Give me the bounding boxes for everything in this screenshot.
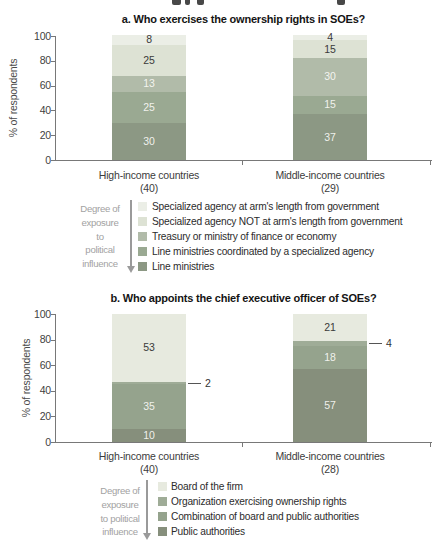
chart-b-title: b. Who appoints the chief executive offi…: [55, 292, 432, 304]
callout-value-label: 2: [205, 377, 211, 390]
exposure-annotation-line: to: [62, 230, 138, 243]
legend-item-label: Board of the firm: [171, 480, 243, 493]
y-axis-tick: [51, 135, 55, 136]
bar-segment: [112, 382, 186, 385]
y-axis-tick: [51, 442, 55, 443]
legend-item-label: Specialized agency at arm's length from …: [152, 200, 379, 213]
y-tick-label: 60: [25, 79, 51, 92]
bar-value-label: 35: [112, 400, 186, 413]
bar-value-label: 25: [112, 54, 186, 67]
exposure-annotation-line: political: [62, 243, 138, 256]
y-tick-label: 40: [25, 104, 51, 117]
legend-swatch: [138, 217, 147, 226]
legend-item-label: Treasury or ministry of finance or econo…: [152, 230, 336, 243]
y-tick-label: 0: [25, 436, 51, 449]
bar-value-label: 30: [112, 135, 186, 148]
cropped-title-fragment: [337, 0, 345, 5]
callout-line: [188, 383, 201, 384]
legend-swatch: [158, 497, 167, 506]
y-axis-tick: [51, 61, 55, 62]
chart-a-y-axis-label: % of respondents: [7, 36, 20, 160]
legend-item-label: Public authorities: [171, 525, 245, 538]
legend-item-label: Organization exercising ownership rights: [171, 495, 346, 508]
category-label: High-income countries: [74, 450, 224, 463]
y-axis-tick: [51, 314, 55, 315]
y-tick-label: 100: [25, 308, 51, 321]
x-axis-line: [55, 442, 432, 443]
exposure-arrow-shaft: [130, 200, 132, 266]
category-label: Middle-income countries: [255, 169, 405, 182]
category-count-label: (40): [74, 182, 224, 195]
bar-value-label: 57: [293, 399, 367, 412]
category-count-label: (40): [74, 463, 224, 476]
x-axis-tick: [242, 161, 243, 165]
bar-value-label: 10: [112, 429, 186, 442]
chart-a-title: a. Who exercises the ownership rights in…: [55, 13, 432, 25]
exposure-arrow-head-icon: [143, 533, 151, 540]
exposure-annotation-line: exposure: [62, 216, 138, 229]
x-axis-line: [55, 160, 432, 161]
bar-segment: [293, 341, 367, 346]
exposure-arrow-shaft: [146, 480, 148, 533]
category-label: High-income countries: [74, 169, 224, 182]
legend-swatch: [158, 482, 167, 491]
legend-item-label: Line ministries: [152, 260, 214, 273]
y-axis-tick: [51, 365, 55, 366]
category-count-label: (28): [255, 463, 405, 476]
y-tick-label: 0: [25, 154, 51, 167]
y-axis-tick: [51, 416, 55, 417]
y-axis-tick: [51, 160, 55, 161]
bar-value-label: 53: [112, 341, 186, 354]
bar-value-label: 8: [112, 33, 186, 46]
bar-value-label: 15: [293, 43, 367, 56]
category-count-label: (29): [255, 182, 405, 195]
cropped-title-fragment: [197, 0, 204, 5]
legend-swatch: [158, 527, 167, 536]
y-axis-tick: [51, 391, 55, 392]
callout-value-label: 4: [386, 337, 392, 350]
legend-swatch: [138, 232, 147, 241]
y-axis-tick: [51, 340, 55, 341]
legend-item-label: Line ministries coordinated by a special…: [152, 245, 374, 258]
category-label: Middle-income countries: [255, 450, 405, 463]
x-axis-tick: [242, 443, 243, 447]
legend-swatch: [138, 262, 147, 271]
bar-value-label: 4: [293, 31, 367, 44]
y-axis-tick: [51, 36, 55, 37]
y-tick-label: 20: [25, 129, 51, 142]
bar-value-label: 37: [293, 131, 367, 144]
legend-swatch: [158, 512, 167, 521]
y-tick-label: 40: [25, 384, 51, 397]
y-tick-label: 100: [25, 30, 51, 43]
x-axis-tick: [430, 161, 431, 165]
figure-two-stacked-bar-charts: a. Who exercises the ownership rights in…: [0, 0, 439, 541]
y-axis-line: [55, 314, 56, 442]
y-tick-label: 80: [25, 333, 51, 346]
y-axis-line: [55, 36, 56, 160]
bar-value-label: 15: [293, 98, 367, 111]
y-axis-tick: [51, 86, 55, 87]
legend-swatch: [138, 202, 147, 211]
cropped-title-fragment: [172, 0, 181, 5]
callout-line: [369, 343, 382, 344]
bar-value-label: 25: [112, 101, 186, 114]
y-tick-label: 20: [25, 410, 51, 423]
legend-swatch: [138, 247, 147, 256]
y-axis-tick: [51, 110, 55, 111]
y-tick-label: 80: [25, 54, 51, 67]
y-tick-label: 60: [25, 359, 51, 372]
cropped-title-fragment: [185, 0, 190, 5]
legend-item-label: Specialized agency NOT at arm's length f…: [152, 215, 402, 228]
exposure-annotation-line: Degree of: [62, 202, 138, 215]
legend-item-label: Combination of board and public authorit…: [171, 510, 359, 523]
x-axis-tick: [430, 443, 431, 447]
bar-value-label: 18: [293, 351, 367, 364]
bar-value-label: 21: [293, 321, 367, 334]
bar-value-label: 13: [112, 77, 186, 90]
exposure-arrow-head-icon: [127, 266, 135, 273]
bar-value-label: 30: [293, 70, 367, 83]
